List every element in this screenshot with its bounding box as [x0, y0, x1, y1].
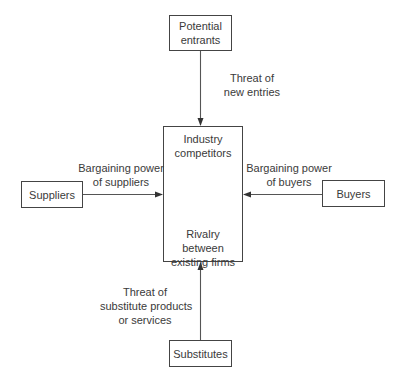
center-bottom-line1: Rivalry between — [164, 227, 242, 255]
suppliers-label: Suppliers — [29, 188, 75, 202]
substitutes-node: Substitutes — [169, 340, 232, 367]
potential-entrants-line1: Potential — [179, 19, 222, 33]
potential-entrants-node: Potential entrants — [169, 15, 232, 51]
suppliers-node: Suppliers — [21, 181, 83, 208]
buyers-node: Buyers — [322, 180, 385, 207]
edge-label-line: substitute products — [100, 299, 190, 313]
buyer-power-label: Bargaining power of buyers — [244, 161, 334, 189]
edge-label-line: Threat of — [212, 71, 292, 85]
edge-label-line: Threat of — [100, 285, 190, 299]
supplier-power-label: Bargaining power of suppliers — [76, 161, 166, 189]
edge-label-line: Bargaining power — [76, 161, 166, 175]
center-top-line1: Industry — [164, 132, 242, 146]
buyers-label: Buyers — [336, 187, 370, 201]
edge-label-line: Bargaining power — [244, 161, 334, 175]
potential-entrants-line2: entrants — [181, 33, 221, 47]
threat-new-entries-label: Threat of new entries — [212, 71, 292, 99]
substitutes-label: Substitutes — [173, 347, 227, 361]
threat-substitutes-label: Threat of substitute products or service… — [100, 285, 190, 327]
edge-label-line: or services — [100, 313, 190, 327]
center-top-line2: competitors — [164, 146, 242, 160]
edge-label-line: new entries — [212, 85, 292, 99]
edge-label-line: of buyers — [244, 175, 334, 189]
edge-label-line: of suppliers — [76, 175, 166, 189]
center-bottom-line2: existing firms — [164, 255, 242, 269]
industry-competitors-node: Industry competitors Rivalry between exi… — [163, 126, 243, 262]
